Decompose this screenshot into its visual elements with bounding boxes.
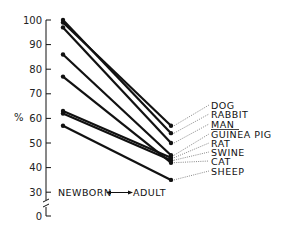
y-tick-label: 30 [29, 187, 42, 198]
series-line [63, 20, 171, 133]
y-tick-label: 50 [29, 138, 42, 149]
y-tick-label: 60 [29, 113, 42, 124]
y-tick-label: 70 [29, 88, 42, 99]
series-line [63, 54, 171, 155]
y-axis-label: % [14, 112, 24, 123]
chart: 030405060708090100 DOGRABBITMANGUINEA PI… [0, 0, 286, 232]
series-lines [61, 18, 173, 182]
legend-label: SHEEP [211, 166, 244, 177]
y-tick-label: 80 [29, 64, 42, 75]
y-tick-label: 100 [23, 15, 42, 26]
y-tick-label: 40 [29, 162, 42, 173]
double-arrow-icon [106, 191, 133, 195]
y-axis: 030405060708090100 [23, 15, 51, 222]
y-tick-label: 0 [36, 211, 42, 222]
x-label-newborn: NEWBORN [58, 187, 112, 198]
series-line [63, 27, 171, 143]
legend: DOGRABBITMANGUINEA PIGRATSWINECATSHEEP [174, 100, 272, 180]
y-tick-label: 90 [29, 39, 42, 50]
x-label-adult: ADULT [133, 187, 166, 198]
